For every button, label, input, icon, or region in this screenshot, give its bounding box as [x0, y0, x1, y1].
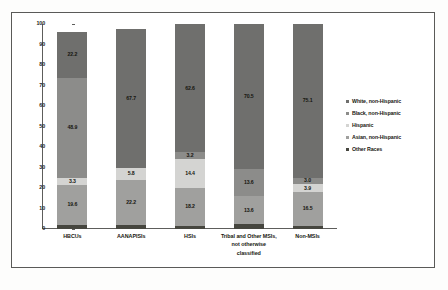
x-axis-label: HBCUs	[43, 232, 102, 257]
chart-legend: White, non-HispanicBlack, non-HispanicHi…	[346, 99, 434, 158]
bar-segment[interactable]: 13.6	[234, 196, 264, 224]
bar-segment-value-label: 3.0	[304, 178, 311, 183]
bar-segment-value-label: 18.2	[185, 204, 195, 209]
bar-column[interactable]: 67.75.822.2	[102, 24, 161, 229]
bar-segment-value-label: 75.1	[303, 98, 313, 103]
plot-area: 1009080706050403020100 22.248.93.319.667…	[42, 24, 324, 229]
bar-segment[interactable]	[116, 225, 146, 229]
bar-segment-value-label: 13.6	[244, 180, 254, 185]
bar-segment[interactable]: 19.6	[57, 185, 87, 225]
bar-segment-value-label: 62.6	[185, 85, 195, 90]
bar-segment[interactable]: 67.7	[116, 29, 146, 168]
bar-segment[interactable]: 16.5	[293, 192, 323, 226]
chart-page: 1009080706050403020100 22.248.93.319.667…	[0, 0, 448, 290]
bar-segment-value-label: 14.4	[185, 171, 195, 176]
bar-segment[interactable]: 22.2	[57, 32, 87, 78]
x-axis-label: Tribal and Other MSIs, not otherwise cla…	[219, 232, 278, 257]
bar-segment-value-label: 3.3	[69, 178, 76, 183]
bar-segment[interactable]	[234, 224, 264, 229]
legend-swatch-icon	[346, 148, 349, 151]
legend-label: Other Races	[352, 147, 382, 152]
stacked-bar[interactable]: 67.75.822.2	[116, 24, 146, 229]
bar-segment[interactable]	[175, 226, 205, 229]
stacked-bar[interactable]: 70.513.613.6	[234, 24, 264, 229]
bar-group: 22.248.93.319.667.75.822.262.63.214.418.…	[43, 24, 337, 229]
legend-label: White, non-Hispanic	[352, 99, 401, 104]
bar-segment[interactable]: 5.8	[116, 168, 146, 180]
bar-column[interactable]: 70.513.613.6	[219, 24, 278, 229]
bar-column[interactable]: 62.63.214.418.2	[161, 24, 220, 229]
legend-swatch-icon	[346, 124, 349, 127]
x-axis-label: HSIs	[161, 232, 220, 257]
bar-segment[interactable]: 48.9	[57, 78, 87, 178]
stacked-bar[interactable]: 75.13.03.916.5	[293, 24, 323, 229]
bar-segment[interactable]: 18.2	[175, 188, 205, 225]
bar-segment[interactable]: 13.6	[234, 169, 264, 197]
bar-segment-value-label: 70.5	[244, 93, 254, 98]
bar-segment-value-label: 22.2	[68, 52, 78, 57]
bar-column[interactable]: 22.248.93.319.6	[43, 24, 102, 229]
bar-segment[interactable]	[293, 226, 323, 229]
bar-segment[interactable]: 70.5	[234, 24, 264, 169]
bar-segment-value-label: 3.9	[304, 185, 311, 190]
legend-label: Black, non-Hispanic	[352, 111, 401, 116]
bar-segment[interactable]: 14.4	[175, 159, 205, 189]
x-axis-label: AANAPISIs	[102, 232, 161, 257]
legend-item[interactable]: White, non-Hispanic	[346, 99, 434, 104]
legend-swatch-icon	[346, 112, 349, 115]
bar-segment-value-label: 3.2	[187, 153, 194, 158]
bar-segment-value-label: 16.5	[303, 206, 313, 211]
bar-segment[interactable]: 3.9	[293, 184, 323, 192]
bar-segment-value-label: 5.8	[128, 171, 135, 176]
legend-swatch-icon	[346, 100, 349, 103]
legend-label: Asian, non-Hispanic	[352, 135, 401, 140]
stacked-bar[interactable]: 22.248.93.319.6	[57, 24, 87, 229]
bar-segment[interactable]: 75.1	[293, 24, 323, 178]
legend-item[interactable]: Asian, non-Hispanic	[346, 135, 434, 140]
bar-segment-value-label: 67.7	[126, 96, 136, 101]
legend-swatch-icon	[346, 136, 349, 139]
legend-item[interactable]: Hispanic	[346, 123, 434, 128]
chart-frame: 1009080706050403020100 22.248.93.319.667…	[11, 12, 435, 268]
bar-segment[interactable]: 22.2	[116, 180, 146, 226]
bar-column[interactable]: 75.13.03.916.5	[278, 24, 337, 229]
stacked-bar[interactable]: 62.63.214.418.2	[175, 24, 205, 229]
bar-segment[interactable]	[57, 225, 87, 229]
legend-item[interactable]: Black, non-Hispanic	[346, 111, 434, 116]
bar-segment-value-label: 13.6	[244, 207, 254, 212]
y-axis-tick-mark	[72, 229, 75, 230]
bar-segment[interactable]: 3.3	[57, 178, 87, 185]
bar-segment-value-label: 19.6	[68, 202, 78, 207]
bar-segment-value-label: 22.2	[126, 200, 136, 205]
legend-item[interactable]: Other Races	[346, 147, 434, 152]
x-axis-label: Non-MSIs	[278, 232, 337, 257]
legend-label: Hispanic	[352, 123, 373, 128]
bar-segment-value-label: 48.9	[68, 125, 78, 130]
bar-segment[interactable]: 62.6	[175, 24, 205, 152]
x-axis-labels: HBCUsAANAPISIsHSIsTribal and Other MSIs,…	[43, 232, 337, 257]
